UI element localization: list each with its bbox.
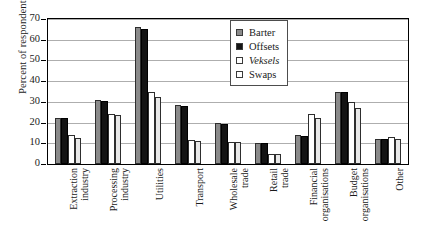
bar-barter	[175, 105, 182, 164]
bar-veksels	[228, 142, 235, 164]
y-tick-label: 0	[0, 158, 40, 168]
bar-barter	[135, 27, 142, 164]
bar-veksels	[388, 137, 395, 164]
legend-label: Offsets	[249, 41, 279, 52]
bar-offsets	[341, 92, 348, 165]
x-axis-label-line: industry	[119, 168, 130, 248]
x-axis-label: Extractionindustry	[68, 168, 84, 248]
x-axis-label: Wholesaletrade	[228, 168, 244, 248]
bar-group	[288, 19, 328, 164]
bar-group	[88, 19, 128, 164]
bar-veksels	[108, 114, 115, 164]
y-tick-label: 50	[0, 54, 40, 64]
y-tick-mark	[41, 81, 46, 82]
legend-label: Barter	[249, 27, 275, 38]
x-axis-label: Financialorganisations	[308, 168, 324, 248]
bar-barter	[295, 135, 302, 164]
bar-veksels	[188, 140, 195, 164]
bar-offsets	[381, 139, 388, 164]
legend-item-barter[interactable]: Barter	[236, 25, 279, 39]
bar-veksels	[308, 114, 315, 164]
y-tick-mark	[41, 143, 46, 144]
y-tick-label: 70	[0, 13, 40, 23]
x-axis-label-line: organisations	[319, 168, 330, 248]
y-tick-mark	[41, 40, 46, 41]
bar-swaps	[275, 154, 282, 164]
x-axis-label-line: organisations	[359, 168, 370, 248]
x-axis-label: Budgetorganisations	[348, 168, 364, 248]
bar-offsets	[301, 136, 308, 164]
bar-swaps	[395, 139, 402, 164]
bar-veksels	[348, 102, 355, 164]
bar-offsets	[221, 124, 228, 164]
x-axis-label-line: Financial	[308, 168, 319, 248]
bar-veksels	[268, 154, 275, 164]
legend: BarterOffsetsVekselsSwaps	[230, 20, 288, 86]
bar-barter	[95, 100, 102, 164]
bar-swaps	[315, 118, 322, 164]
x-axis-label-line: Transport	[194, 168, 205, 248]
legend-swatch-icon	[236, 57, 243, 64]
y-tick-label: 40	[0, 75, 40, 85]
legend-item-veksels[interactable]: Veksels	[236, 53, 279, 67]
x-axis-label: Other	[394, 168, 410, 248]
legend-item-offsets[interactable]: Offsets	[236, 39, 279, 53]
legend-label: Veksels	[249, 55, 279, 66]
y-tick-label: 30	[0, 96, 40, 106]
y-tick-mark	[41, 60, 46, 61]
bar-group	[128, 19, 168, 164]
x-axis-label: Utilities	[154, 168, 170, 248]
bar-swaps	[195, 141, 202, 164]
x-axis-label-line: Utilities	[154, 168, 165, 248]
bar-swaps	[115, 115, 122, 164]
bar-swaps	[355, 108, 362, 164]
x-axis-label: Transport	[194, 168, 210, 248]
legend-item-swaps[interactable]: Swaps	[236, 67, 279, 81]
legend-swatch-icon	[236, 43, 243, 50]
x-axis-label-line: trade	[279, 168, 290, 248]
bars-layer	[48, 19, 408, 164]
y-tick-label: 10	[0, 137, 40, 147]
bar-offsets	[261, 143, 268, 164]
bar-swaps	[75, 138, 82, 164]
y-tick-mark	[41, 123, 46, 124]
x-axis-label-line: Budget	[348, 168, 359, 248]
legend-label: Swaps	[249, 69, 276, 80]
bar-offsets	[61, 118, 68, 164]
x-axis-label-line: industry	[79, 168, 90, 248]
bar-barter	[215, 123, 222, 164]
bar-swaps	[155, 97, 162, 164]
bar-barter	[335, 92, 342, 165]
y-tick-label: 20	[0, 117, 40, 127]
bar-veksels	[68, 135, 75, 164]
bar-swaps	[235, 142, 242, 164]
x-axis-label: Processingindustry	[108, 168, 124, 248]
x-axis-label-line: trade	[239, 168, 250, 248]
bar-offsets	[181, 106, 188, 164]
bar-group	[168, 19, 208, 164]
y-tick-mark	[41, 19, 46, 20]
x-axis-labels: ExtractionindustryProcessingindustryUtil…	[48, 168, 408, 251]
bar-offsets	[101, 101, 108, 164]
legend-swatch-icon	[236, 71, 243, 78]
y-tick-mark	[41, 164, 46, 165]
bar-group	[328, 19, 368, 164]
x-axis-label-line: Wholesale	[228, 168, 239, 248]
bar-barter	[375, 139, 382, 164]
bar-group	[368, 19, 408, 164]
bar-chart: Percent of respondents 706050403020100 B…	[0, 0, 422, 251]
y-axis-ticks: 706050403020100	[0, 0, 47, 251]
legend-swatch-icon	[236, 29, 243, 36]
x-axis-label-line: Extraction	[68, 168, 79, 248]
x-axis-label-line: Other	[394, 168, 405, 248]
y-tick-label: 60	[0, 34, 40, 44]
bar-veksels	[148, 92, 155, 165]
bar-group	[48, 19, 88, 164]
x-axis-label-line: Processing	[108, 168, 119, 248]
bar-offsets	[141, 29, 148, 164]
y-tick-mark	[41, 102, 46, 103]
x-axis-label-line: Retail	[268, 168, 279, 248]
bar-barter	[255, 143, 262, 164]
x-axis-label: Retailtrade	[268, 168, 284, 248]
bar-barter	[55, 118, 62, 164]
